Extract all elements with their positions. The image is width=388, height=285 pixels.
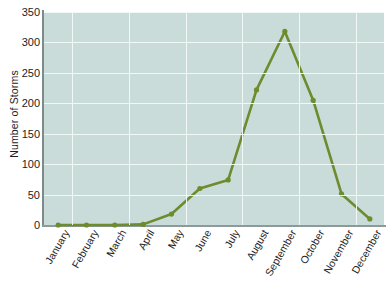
gridline-vertical: [72, 12, 73, 225]
data-point-marker: [141, 222, 146, 227]
x-axis-tick-label: April: [137, 228, 157, 251]
y-axis-tick-label: 100: [22, 159, 40, 170]
y-axis-tick-label: 50: [28, 189, 40, 200]
data-point-marker: [169, 211, 174, 216]
gridline-vertical: [129, 12, 130, 225]
data-point-marker: [311, 98, 316, 103]
x-axis-tick-label: February: [69, 228, 99, 270]
data-point-marker: [197, 186, 202, 191]
gridline-horizontal: [44, 73, 384, 74]
gridline-horizontal: [44, 42, 384, 43]
x-axis-tick-label: May: [166, 228, 185, 250]
plot-area: [44, 12, 384, 225]
gridline-vertical: [356, 12, 357, 225]
gridline-horizontal: [44, 164, 384, 165]
gridline-vertical: [242, 12, 243, 225]
gridline-horizontal: [44, 195, 384, 196]
x-axis-tick-label: March: [104, 228, 128, 259]
data-point-marker: [367, 216, 372, 221]
gridline-horizontal: [44, 134, 384, 135]
y-axis-tick-label: 150: [22, 128, 40, 139]
x-axis-tick-label: October: [298, 228, 326, 266]
data-point-marker: [226, 177, 231, 182]
x-axis-tick-label: August: [244, 228, 269, 262]
y-axis-tick-label: 200: [22, 98, 40, 109]
y-axis-tick-labels: 050100150200250300350: [10, 0, 40, 285]
data-point-marker: [84, 222, 89, 227]
data-point-marker: [112, 222, 117, 227]
x-axis-tick-label: July: [223, 228, 241, 249]
data-point-marker: [254, 87, 259, 92]
series-polyline: [58, 31, 370, 225]
line-chart-figure: Number of Storms 050100150200250300350 J…: [0, 0, 388, 285]
data-line-series: [44, 12, 384, 225]
gridline-vertical: [299, 12, 300, 225]
chart-title: [60, 0, 340, 9]
y-axis-tick-label: 250: [22, 67, 40, 78]
x-axis-tick-labels: JanuaryFebruaryMarchAprilMayJuneJulyAugu…: [44, 228, 384, 285]
gridline-horizontal: [44, 12, 384, 13]
gridline-horizontal: [44, 103, 384, 104]
y-axis-tick-label: 300: [22, 37, 40, 48]
data-point-marker: [282, 29, 287, 34]
y-axis-tick-label: 350: [22, 7, 40, 18]
y-axis-tick-label: 0: [34, 220, 40, 231]
x-axis-tick-label: January: [43, 228, 71, 266]
x-axis-tick-label: June: [192, 228, 212, 253]
gridline-vertical: [186, 12, 187, 225]
